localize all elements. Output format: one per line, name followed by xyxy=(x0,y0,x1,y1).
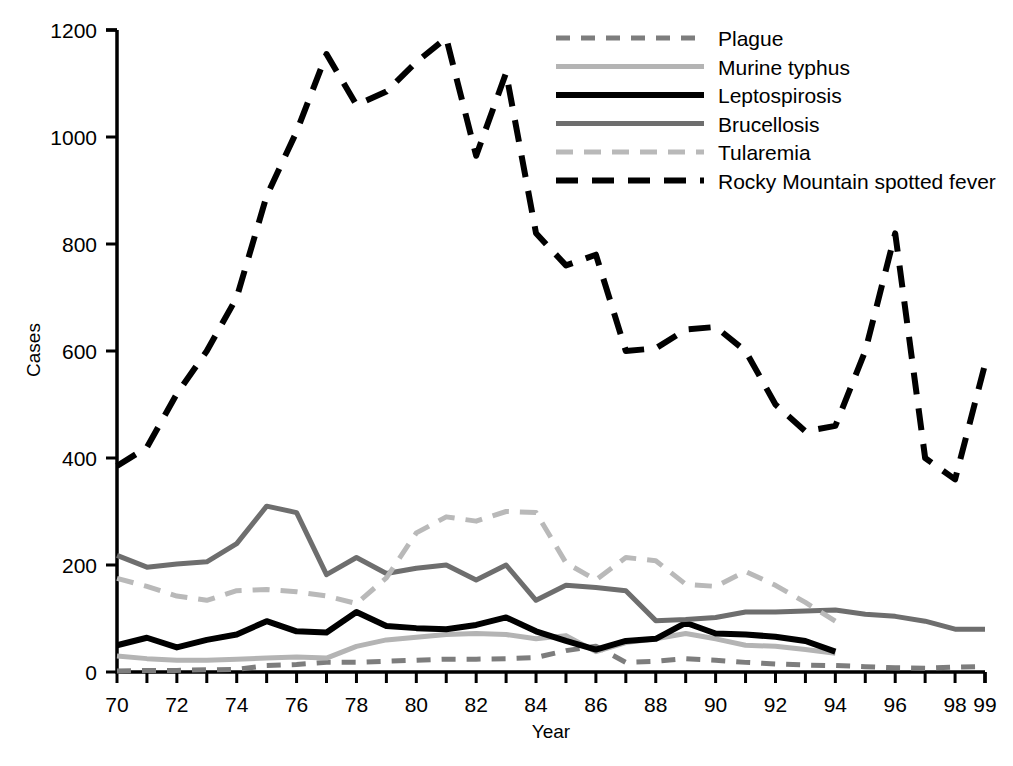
legend-label: Murine typhus xyxy=(718,56,850,79)
legend-label: Leptospirosis xyxy=(718,84,842,107)
x-axis-tick-label: 74 xyxy=(225,693,249,716)
axis-spines xyxy=(117,30,985,672)
x-axis-tick-label: 98 xyxy=(943,693,966,716)
x-axis-tick-label: 96 xyxy=(884,693,907,716)
y-axis-tick-label: 400 xyxy=(62,447,97,470)
x-axis-tick-label: 82 xyxy=(464,693,487,716)
x-axis-tick-label: 70 xyxy=(105,693,128,716)
legend-label: Rocky Mountain spotted fever xyxy=(718,170,996,193)
y-axis-title: Cases xyxy=(23,323,44,377)
y-axis-tick-label: 1200 xyxy=(50,19,97,42)
x-axis-title: Year xyxy=(532,721,571,742)
series-line xyxy=(117,38,985,479)
y-axis-tick-label: 1000 xyxy=(50,126,97,149)
series-line xyxy=(117,506,985,629)
x-axis-tick-label: 84 xyxy=(524,693,548,716)
series-line xyxy=(117,512,835,622)
y-axis-tick-label: 0 xyxy=(85,661,97,684)
x-axis-tick-label: 90 xyxy=(704,693,727,716)
y-axis-tick-label: 800 xyxy=(62,233,97,256)
legend-label: Plague xyxy=(718,27,783,50)
chart-container: 0200400600800100012007072747678808284868… xyxy=(0,0,1013,766)
x-axis-tick-label: 99 xyxy=(973,693,996,716)
legend-layer: PlagueMurine typhusLeptospirosisBrucello… xyxy=(556,27,996,193)
x-axis-tick-label: 86 xyxy=(584,693,607,716)
x-axis-tick-label: 80 xyxy=(405,693,428,716)
legend-label: Tularemia xyxy=(718,141,811,164)
x-axis-tick-label: 92 xyxy=(764,693,787,716)
legend-label: Brucellosis xyxy=(718,113,820,136)
x-axis-tick-label: 78 xyxy=(345,693,368,716)
y-axis-tick-label: 600 xyxy=(62,340,97,363)
x-axis-tick-label: 88 xyxy=(644,693,667,716)
x-axis-tick-label: 94 xyxy=(824,693,848,716)
x-axis-tick-label: 72 xyxy=(165,693,188,716)
series-layer xyxy=(117,38,985,671)
line-chart: 0200400600800100012007072747678808284868… xyxy=(0,0,1013,766)
axis-layer xyxy=(106,30,985,683)
x-axis-tick-label: 76 xyxy=(285,693,308,716)
y-axis-tick-label: 200 xyxy=(62,554,97,577)
